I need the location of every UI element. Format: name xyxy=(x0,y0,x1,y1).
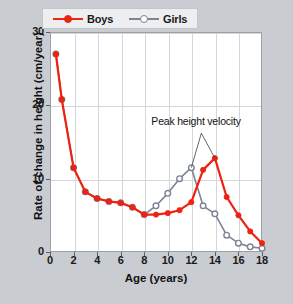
datapoint-boys-12 xyxy=(189,200,194,205)
datapoint-boys-16 xyxy=(236,213,241,218)
tick-y-0 xyxy=(46,252,50,253)
datapoint-girls-10 xyxy=(165,191,171,197)
xtick-label-0: 0 xyxy=(40,254,60,266)
datapoint-boys-6 xyxy=(118,200,123,205)
annotation-peak-height-velocity: Peak height velocity xyxy=(151,115,240,127)
datapoint-boys-4 xyxy=(95,196,100,201)
datapoint-boys-8 xyxy=(142,212,147,217)
datapoint-boys-7 xyxy=(130,205,135,210)
datapoint-boys-5 xyxy=(106,199,111,204)
tick-y-20 xyxy=(46,105,50,106)
tick-y-30 xyxy=(46,32,50,33)
x-axis-title: Age (years) xyxy=(50,272,262,284)
datapoint-boys-1 xyxy=(59,97,64,102)
xtick-label-2: 2 xyxy=(64,254,84,266)
series-layer xyxy=(50,32,262,252)
legend-item-boys[interactable]: Boys xyxy=(53,13,113,25)
xtick-label-18: 18 xyxy=(252,254,272,266)
legend-marker-boys-icon xyxy=(53,13,83,24)
datapoint-boys-15 xyxy=(224,194,229,199)
xtick-label-12: 12 xyxy=(181,254,201,266)
legend: Boys Girls xyxy=(42,8,198,29)
legend-item-girls[interactable]: Girls xyxy=(129,13,187,25)
datapoint-boys-3 xyxy=(83,189,88,194)
datapoint-girls-16 xyxy=(236,240,242,246)
tick-y-10 xyxy=(46,179,50,180)
y-axis-title: Rate of change in height (cm/year) xyxy=(32,26,44,226)
datapoint-girls-13 xyxy=(200,203,206,209)
legend-label-boys: Boys xyxy=(87,13,113,25)
datapoint-girls-15 xyxy=(224,232,230,238)
datapoint-girls-14 xyxy=(212,211,218,217)
xtick-label-8: 8 xyxy=(134,254,154,266)
datapoint-girls-11 xyxy=(177,176,183,182)
xtick-label-16: 16 xyxy=(228,254,248,266)
datapoint-girls-9 xyxy=(153,203,159,209)
datapoint-boys-10 xyxy=(165,211,170,216)
legend-label-girls: Girls xyxy=(163,13,187,25)
datapoint-boys-0.5 xyxy=(53,51,58,56)
annotation-leader-line-girls xyxy=(191,133,201,167)
datapoint-boys-2 xyxy=(71,165,76,170)
xtick-label-6: 6 xyxy=(111,254,131,266)
xtick-label-4: 4 xyxy=(87,254,107,266)
datapoint-boys-11 xyxy=(177,208,182,213)
xtick-label-14: 14 xyxy=(205,254,225,266)
figure-container: 0102030 024681012141618 Age (years) Rate… xyxy=(0,0,293,304)
annotation-leader-line-boys xyxy=(201,133,215,158)
datapoint-girls-18 xyxy=(259,246,265,252)
legend-marker-girls-icon xyxy=(129,13,159,24)
datapoint-boys-9 xyxy=(153,212,158,217)
series-line-girls xyxy=(56,54,262,248)
datapoint-boys-18 xyxy=(259,241,264,246)
datapoint-girls-17 xyxy=(247,244,253,250)
datapoint-boys-17 xyxy=(248,229,253,234)
xtick-label-10: 10 xyxy=(158,254,178,266)
datapoint-boys-13 xyxy=(201,167,206,172)
